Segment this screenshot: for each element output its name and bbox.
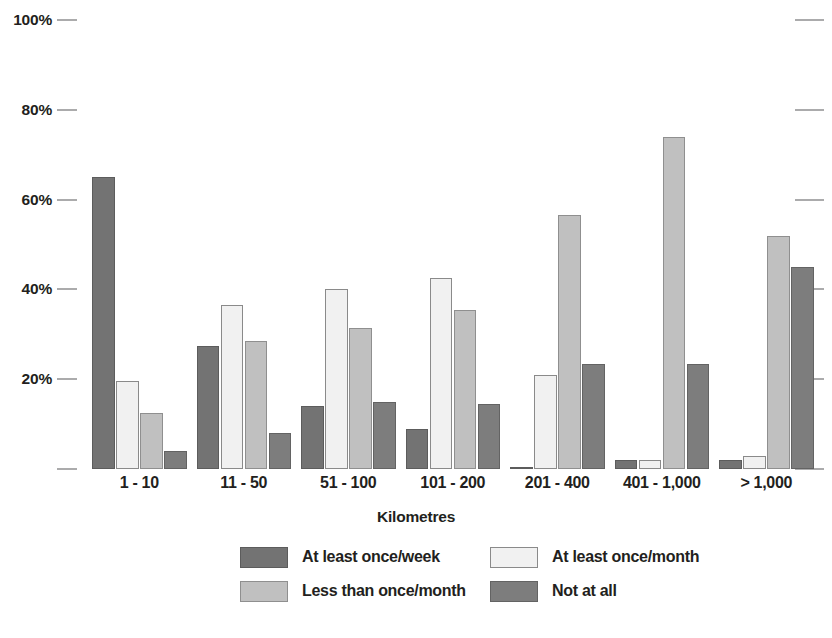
- legend-swatch-icon: [240, 547, 288, 568]
- bar-group-bars: [92, 20, 187, 469]
- bar[interactable]: [373, 402, 396, 469]
- chart-legend: At least once/week At least once/month L…: [240, 540, 720, 608]
- bar[interactable]: [510, 467, 533, 469]
- bar[interactable]: [269, 433, 292, 469]
- bar[interactable]: [349, 328, 372, 469]
- bar-group-bars: [197, 20, 292, 469]
- bar[interactable]: [301, 406, 324, 469]
- bar-group-bars: [719, 20, 814, 469]
- legend-item-not-at-all[interactable]: Not at all: [490, 581, 720, 602]
- y-axis-tick-mark: [57, 289, 77, 290]
- bar-group-bars: [406, 20, 501, 469]
- bar[interactable]: [221, 305, 244, 469]
- bar[interactable]: [639, 460, 662, 469]
- bar-group-bars: [301, 20, 396, 469]
- x-axis-title: Kilometres: [0, 508, 832, 526]
- y-axis-tick-mark: [57, 20, 77, 21]
- legend-item-at-least-once-month[interactable]: At least once/month: [490, 547, 720, 568]
- bar[interactable]: [558, 215, 581, 469]
- legend-swatch-icon: [490, 547, 538, 568]
- y-axis-tick-mark: [57, 379, 77, 380]
- legend-label: At least once/week: [302, 548, 440, 566]
- bar[interactable]: [197, 346, 220, 469]
- bar[interactable]: [164, 451, 187, 469]
- y-axis-tick-mark: [57, 109, 77, 110]
- bar-group: [615, 20, 710, 469]
- bar-group: [197, 20, 292, 469]
- bar[interactable]: [454, 310, 477, 469]
- bar-chart: 100%80%60%40%20%1 - 1011 - 5051 - 100101…: [0, 0, 832, 638]
- bar-group: [510, 20, 605, 469]
- bar[interactable]: [663, 137, 686, 469]
- bar[interactable]: [534, 375, 557, 469]
- bar[interactable]: [615, 460, 638, 469]
- bar-group-bars: [510, 20, 605, 469]
- legend-label: At least once/month: [552, 548, 699, 566]
- legend-swatch-icon: [240, 581, 288, 602]
- legend-label: Not at all: [552, 582, 617, 600]
- y-axis-tick-label: 100%: [0, 11, 52, 29]
- bar-group: [301, 20, 396, 469]
- plot-area: 100%80%60%40%20%1 - 1011 - 5051 - 100101…: [0, 0, 832, 500]
- bar[interactable]: [719, 460, 742, 469]
- bar[interactable]: [743, 456, 766, 469]
- bar-group: [719, 20, 814, 469]
- bar[interactable]: [92, 177, 115, 469]
- y-axis-tick-label: 80%: [0, 101, 52, 119]
- y-axis-tick-label: 60%: [0, 191, 52, 209]
- bar[interactable]: [430, 278, 453, 469]
- legend-item-at-least-once-week[interactable]: At least once/week: [240, 547, 490, 568]
- bar[interactable]: [478, 404, 501, 469]
- bar[interactable]: [767, 236, 790, 469]
- y-axis-tick-label: 40%: [0, 280, 52, 298]
- y-axis-tick-mark: [57, 469, 77, 470]
- bar[interactable]: [582, 364, 605, 470]
- legend-label: Less than once/month: [302, 582, 466, 600]
- legend-row: Less than once/month Not at all: [240, 574, 720, 608]
- bar-group-bars: [615, 20, 710, 469]
- legend-item-less-than-once-month[interactable]: Less than once/month: [240, 581, 490, 602]
- bar[interactable]: [325, 289, 348, 469]
- bar[interactable]: [245, 341, 268, 469]
- bar[interactable]: [140, 413, 163, 469]
- y-axis-tick-mark: [57, 199, 77, 200]
- bar[interactable]: [406, 429, 429, 469]
- bar-group: [92, 20, 187, 469]
- y-axis-tick-label: 20%: [0, 370, 52, 388]
- x-axis-tick-label: > 1,000: [693, 474, 832, 492]
- legend-swatch-icon: [490, 581, 538, 602]
- legend-row: At least once/week At least once/month: [240, 540, 720, 574]
- bar-group: [406, 20, 501, 469]
- bar[interactable]: [791, 267, 814, 469]
- bar[interactable]: [116, 381, 139, 469]
- bar[interactable]: [687, 364, 710, 470]
